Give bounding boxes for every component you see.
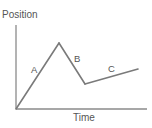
segment-a-line [16, 43, 59, 109]
position-time-diagram: Position Time A B C [0, 0, 152, 128]
segment-b-label: B [74, 54, 80, 64]
segment-b-line [59, 43, 85, 84]
segment-a-label: A [31, 65, 37, 75]
segment-c-label: C [108, 64, 115, 74]
x-axis-label: Time [73, 113, 95, 123]
y-axis-label: Position [2, 10, 38, 20]
